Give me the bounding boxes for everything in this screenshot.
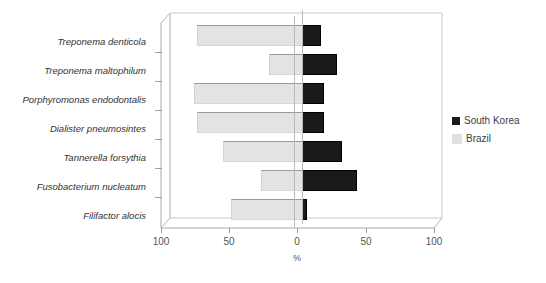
- bar-south-korea: [302, 83, 324, 104]
- category-label: Porphyromonas endodontalis: [0, 94, 152, 105]
- bar-south-korea: [302, 25, 321, 46]
- bar-row: [170, 21, 442, 50]
- y-axis-tick: [155, 81, 162, 82]
- bar-row: [170, 79, 442, 108]
- x-axis-tick-label: 50: [209, 236, 249, 248]
- bar-brazil: [269, 54, 302, 75]
- x-axis-tick-label: 0: [277, 236, 317, 248]
- legend-item-south-korea[interactable]: South Korea: [452, 113, 520, 128]
- y-axis-tick: [155, 197, 162, 198]
- bar-brazil: [197, 112, 302, 133]
- legend-item-brazil[interactable]: Brazil: [452, 131, 520, 146]
- zero-baseline-front: [294, 16, 295, 228]
- bar-south-korea: [302, 54, 338, 75]
- x-axis-tick: [229, 228, 230, 233]
- bar-row: [170, 108, 442, 137]
- chart-legend: South Korea Brazil: [452, 113, 520, 149]
- bar-row: [170, 137, 442, 166]
- x-axis-tick-label: 100: [141, 236, 181, 248]
- bar-south-korea: [302, 170, 357, 191]
- bar-south-korea: [302, 112, 324, 133]
- category-label-column: Treponema denticola Treponema maltophilu…: [0, 0, 152, 283]
- y-axis-tick: [155, 52, 162, 53]
- plot-area: [170, 13, 442, 218]
- legend-swatch-icon-brazil: [452, 134, 462, 144]
- bar-brazil: [223, 141, 302, 162]
- x-axis-tick: [297, 228, 298, 233]
- x-axis-tick-label: 100: [414, 236, 454, 248]
- bar-brazil: [197, 25, 302, 46]
- y-axis-tick: [155, 110, 162, 111]
- y-axis-tick: [155, 139, 162, 140]
- x-axis-tick: [366, 228, 367, 233]
- bar-brazil: [231, 199, 302, 220]
- zero-baseline: [302, 10, 303, 224]
- category-label: Treponema maltophilum: [0, 65, 152, 76]
- category-label: Filifactor alocis: [0, 210, 152, 221]
- bar-row: [170, 195, 442, 224]
- x-axis-tick: [434, 228, 435, 233]
- x-axis-tick: [161, 228, 162, 233]
- x-axis-title: %: [277, 253, 317, 263]
- bar-south-korea: [302, 141, 342, 162]
- y-axis-tick: [155, 168, 162, 169]
- category-label: Fusobacterium nucleatum: [0, 181, 152, 192]
- legend-label: South Korea: [464, 115, 520, 126]
- category-label: Dialister pneumosintes: [0, 123, 152, 134]
- x-axis-tick-label: 50: [346, 236, 386, 248]
- category-label: Tannerella forsythia: [0, 152, 152, 163]
- bar-brazil: [261, 170, 302, 191]
- bar-brazil: [194, 83, 302, 104]
- legend-swatch-icon-south-korea: [452, 117, 460, 125]
- category-label: Treponema denticola: [0, 36, 152, 47]
- bar-row: [170, 166, 442, 195]
- chart-container: Treponema denticola Treponema maltophilu…: [0, 0, 546, 283]
- bar-row: [170, 50, 442, 79]
- legend-label: Brazil: [466, 133, 491, 144]
